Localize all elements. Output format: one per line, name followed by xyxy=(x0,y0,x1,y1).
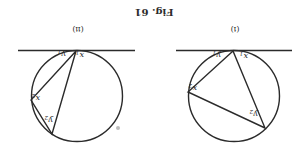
figure-61: Fig. 61 (ii) (i) x 1 y 1 x 2 y 2 xyxy=(0,0,308,160)
panel-ii-diagram: x 1 y 1 x 2 y 2 xyxy=(18,49,135,142)
svg-text:2: 2 xyxy=(44,115,49,121)
label-x1: x 1 xyxy=(240,51,249,61)
label-x1: x 1 xyxy=(76,50,85,60)
circle xyxy=(189,51,280,142)
label-y2: y 2 xyxy=(249,109,259,119)
svg-text:2: 2 xyxy=(31,93,36,99)
svg-text:(i): (i) xyxy=(231,25,240,34)
caption-text: Fig. 61 xyxy=(135,7,174,18)
caption: Fig. 61 xyxy=(135,7,174,18)
circle xyxy=(32,51,123,142)
panel-label-ii: (ii) xyxy=(72,25,83,34)
label-y1: y 1 xyxy=(58,49,68,59)
svg-text:2: 2 xyxy=(249,109,254,115)
svg-text:1: 1 xyxy=(76,50,80,56)
scan-artifact xyxy=(116,126,120,130)
svg-text:1: 1 xyxy=(58,49,62,55)
svg-text:2: 2 xyxy=(188,83,193,89)
inscribed-triangle xyxy=(188,51,265,128)
panel-label-i: (i) xyxy=(231,25,240,34)
svg-text:(ii): (ii) xyxy=(72,25,83,34)
panel-i-diagram: x 1 y 1 x 2 y 2 xyxy=(176,50,292,142)
svg-text:1: 1 xyxy=(240,51,244,57)
label-y1: y 1 xyxy=(213,50,223,60)
svg-text:1: 1 xyxy=(213,50,217,56)
